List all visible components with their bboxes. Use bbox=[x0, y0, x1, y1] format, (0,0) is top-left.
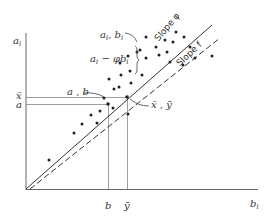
scatter-diagram bbox=[0, 0, 274, 216]
leader-ai-bi bbox=[125, 33, 137, 42]
tick-label-b: b bbox=[105, 201, 111, 211]
residual-brace bbox=[135, 46, 139, 74]
x-axis-label: bi bbox=[250, 199, 259, 211]
y-axis-label-sub: i bbox=[19, 40, 21, 48]
annotation-residual: ai − φbi bbox=[90, 54, 129, 66]
annotation-residual-sub2: i bbox=[126, 58, 128, 66]
annotation-xbar-ybar: x̄ , ȳ bbox=[151, 100, 172, 110]
tick-label-a: a bbox=[16, 100, 22, 110]
x-axis-label-sub: i bbox=[256, 203, 258, 211]
annotation-a-b: a , b bbox=[67, 87, 89, 97]
tick-label-ybar: ȳ bbox=[124, 201, 130, 211]
y-axis-label: ai bbox=[13, 36, 21, 48]
annotation-residual-mid: − φb bbox=[98, 53, 126, 64]
annotation-ai-bi: ai, bi bbox=[100, 30, 123, 42]
annotation-ai-bi-sub2: i bbox=[121, 34, 123, 42]
annotation-ai-bi-mid: , b bbox=[108, 29, 121, 40]
